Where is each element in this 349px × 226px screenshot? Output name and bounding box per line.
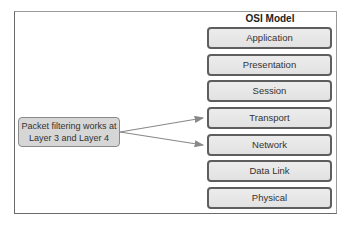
arrow-to-transport [120, 118, 203, 132]
arrow-to-network [120, 132, 203, 145]
arrows [0, 0, 349, 226]
